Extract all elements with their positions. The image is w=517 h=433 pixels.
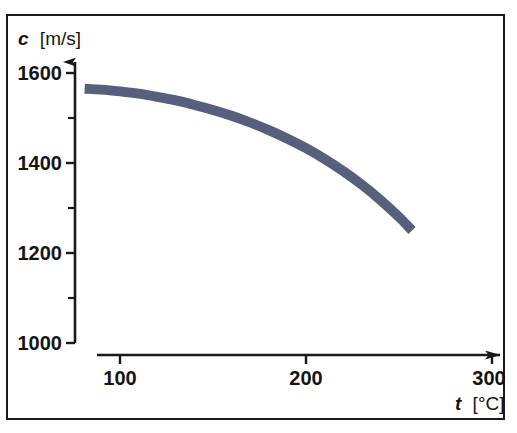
x-axis-symbol: t	[455, 393, 462, 414]
y-tick-label-1400: 1400	[18, 152, 63, 174]
chart-figure: 1600 1400 1200 1000 c [m/s] 100 200 300 …	[0, 0, 517, 433]
y-axis-symbol: c	[18, 28, 29, 49]
x-tick-label-100: 100	[103, 367, 136, 389]
x-tick-label-200: 200	[289, 367, 322, 389]
y-tick-label-1000: 1000	[18, 332, 63, 354]
y-axis-unit: [m/s]	[40, 28, 81, 49]
y-tick-label-1200: 1200	[18, 242, 63, 264]
chart-plot-area: 1600 1400 1200 1000 c [m/s] 100 200 300 …	[0, 0, 517, 433]
y-axis-title: c [m/s]	[18, 28, 81, 49]
x-tick-label-300: 300	[472, 367, 505, 389]
x-axis-unit: [°C]	[473, 393, 505, 414]
x-axis-title: t [°C]	[455, 393, 505, 414]
data-curve-speed-of-sound	[85, 89, 412, 231]
y-tick-label-1600: 1600	[18, 62, 63, 84]
